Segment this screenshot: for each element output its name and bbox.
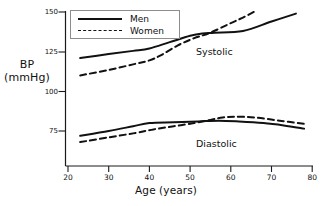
y-tick-label-125: 125 [36,48,58,56]
legend-label-men: Men [124,14,149,24]
y-tick-label-100: 100 [36,88,58,96]
x-axis-title: Age (years) [0,184,332,197]
x-tick-label-70: 70 [261,174,283,182]
y-axis-title-line1: BP [4,58,50,71]
x-tick-label-50: 50 [179,174,201,182]
legend-dashed-line-icon [76,26,124,36]
x-tick-label-40: 40 [138,174,160,182]
x-tick-label-80: 80 [301,174,323,182]
legend-solid-line-icon [76,14,124,24]
y-axis-title: BP (mmHg) [4,58,50,84]
diastolic-series-label: Diastolic [196,138,237,149]
chart-legend: Men Women [70,10,180,39]
systolic-series-label: Systolic [196,46,233,57]
x-tick-label-60: 60 [220,174,242,182]
x-tick-label-30: 30 [98,174,120,182]
x-tick-label-20: 20 [57,174,79,182]
blood-pressure-by-age-chart: 150 125 100 75 20 30 40 50 60 70 80 BP (… [0,0,332,206]
y-tick-label-150: 150 [36,8,58,16]
legend-label-women: Women [124,26,164,36]
legend-item-men: Men [76,13,149,25]
y-axis-title-line2: (mmHg) [4,71,50,84]
y-axis-ticks [59,12,66,131]
x-axis-ticks [68,166,312,172]
y-tick-label-75: 75 [36,127,58,135]
legend-item-women: Women [76,25,164,37]
